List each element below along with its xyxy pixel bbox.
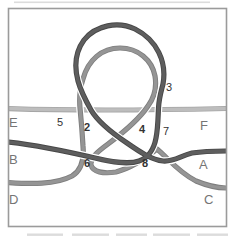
end-label-D: D [9, 192, 19, 207]
medium-rope-edge [8, 48, 227, 188]
page-artifact-bottom-4 [153, 234, 190, 236]
knot-diagram-figure: E F B A D C 5 2 3 4 7 6 8 [0, 0, 235, 238]
page-artifact-bottom-5 [197, 234, 228, 236]
crossing-number-7: 7 [163, 125, 169, 137]
light-rope [8, 109, 227, 111]
crossing-number-2: 2 [84, 121, 90, 133]
crossing-number-6: 6 [84, 157, 90, 169]
crossing-number-8: 8 [142, 157, 148, 169]
end-label-A: A [199, 157, 208, 172]
figure-frame [9, 9, 227, 227]
end-label-F: F [200, 118, 208, 133]
page-artifact-top [14, 2, 210, 4]
page-artifact-bottom-3 [116, 234, 147, 236]
knot-diagram: E F B A D C 5 2 3 4 7 6 8 [0, 0, 235, 238]
page-artifact-bottom-1 [27, 234, 63, 236]
page-artifact-bottom-2 [72, 234, 109, 236]
medium-rope-casing [8, 48, 227, 188]
crossing-number-5: 5 [57, 116, 63, 128]
end-label-B: B [9, 152, 18, 167]
end-label-E: E [9, 115, 18, 130]
end-label-C: C [204, 192, 214, 207]
crossing-number-3: 3 [166, 81, 172, 93]
crossing-number-4: 4 [139, 123, 146, 135]
medium-rope [8, 48, 227, 188]
